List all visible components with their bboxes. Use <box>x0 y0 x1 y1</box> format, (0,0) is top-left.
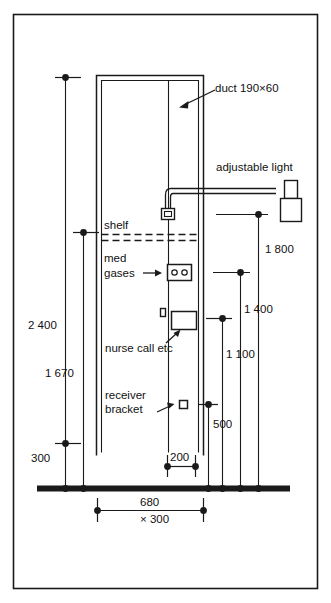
dimension-1100-bottom-dot <box>219 485 226 492</box>
dimension-300-top-dot <box>62 440 69 447</box>
med-gases-port-right <box>182 270 187 275</box>
med-gases-outlet-plate <box>168 265 192 281</box>
dimension-2400-top-dot <box>62 74 69 81</box>
dimension-680-label: 680 <box>140 496 159 508</box>
dimension-200-label: 200 <box>170 451 189 463</box>
med-gases-outlet <box>168 265 192 281</box>
figure-border <box>14 15 318 589</box>
nurse-call-label: nurse call etc <box>105 342 173 354</box>
light-wall-mount-inner <box>165 212 172 217</box>
dimension-200-left-dot <box>164 463 171 470</box>
receiver-bracket-label-line2: bracket <box>105 403 144 415</box>
receiver-bracket-box <box>180 401 188 409</box>
dimension-680-depth-label: × 300 <box>140 513 169 525</box>
dimension-2400-bottom-dot <box>62 485 69 492</box>
med-gases-port-left <box>172 270 177 275</box>
dimension-1400-dot <box>237 269 244 276</box>
med-gases-label-line2: gases <box>104 267 135 279</box>
dimension-1800-label: 1 800 <box>265 243 294 255</box>
nurse-call-panel <box>172 312 197 330</box>
dimension-500-dot <box>205 401 212 408</box>
dimension-1670-label: 1 670 <box>45 367 74 379</box>
dimension-680-left-dot <box>94 507 101 514</box>
dimension-1800-dot <box>255 211 262 218</box>
dimension-1670-top-dot <box>80 229 87 236</box>
med-gases-label-line1: med <box>104 252 126 264</box>
lamp-neck <box>285 181 298 199</box>
dimension-1400-bottom-dot <box>237 485 244 492</box>
technical-drawing-figure: duct 190×60 adjustable light shelf med g <box>0 0 331 603</box>
dimension-500-label: 500 <box>213 418 232 430</box>
dimension-300-label: 300 <box>31 452 50 464</box>
adjustable-light-label: adjustable light <box>216 161 294 173</box>
receiver-bracket-label-line1: receiver <box>105 389 146 401</box>
dimension-1100-dot <box>219 315 226 322</box>
drawing-canvas: duct 190×60 adjustable light shelf med g <box>0 0 331 603</box>
dimension-2400-label: 2 400 <box>28 319 57 331</box>
lamp-body <box>281 199 302 222</box>
dimension-500-bottom-dot <box>205 485 212 492</box>
dimension-1100-label: 1 100 <box>226 348 255 360</box>
duct-label: duct 190×60 <box>215 82 279 94</box>
dimension-1670-bottom-dot <box>80 485 87 492</box>
dimension-1400-label: 1 400 <box>244 303 273 315</box>
dimension-200-right-dot <box>192 463 199 470</box>
nurse-call-small-switch <box>161 309 166 317</box>
dimension-680-right-dot <box>200 507 207 514</box>
dimension-1800-bottom-dot <box>255 485 262 492</box>
shelf-label: shelf <box>104 219 129 231</box>
